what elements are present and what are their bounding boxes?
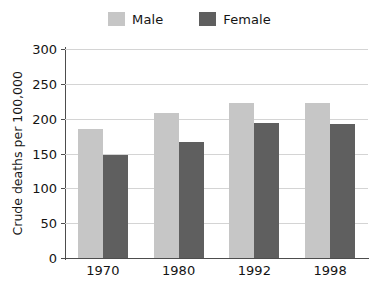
y-tick-label-0: 0: [49, 252, 57, 265]
legend-entry-female: Female: [199, 12, 271, 26]
legend-label-female: Female: [223, 13, 271, 26]
x-tick-label-1992: 1992: [214, 264, 294, 277]
chart-legend: Male Female: [0, 12, 379, 26]
x-tick-label-1980: 1980: [139, 264, 219, 277]
y-tick-mark-250: [61, 84, 65, 85]
legend-swatch-male: [108, 12, 125, 26]
y-tick-label-150: 150: [32, 147, 57, 160]
plot-area: 050100150200250300: [65, 49, 368, 258]
bar-male-1992: [229, 103, 254, 258]
bar-male-1998: [305, 103, 330, 258]
bar-male-1970: [78, 129, 103, 258]
y-tick-label-50: 50: [40, 217, 57, 230]
y-tick-mark-0: [61, 258, 65, 259]
y-tick-mark-150: [61, 154, 65, 155]
gridline-250: [65, 84, 368, 85]
legend-label-male: Male: [132, 13, 163, 26]
bar-female-1970: [103, 155, 128, 258]
bar-male-1980: [154, 113, 179, 258]
bar-chart-figure: Male Female Crude deaths per 100,000 050…: [0, 0, 379, 290]
y-axis-title: Crude deaths per 100,000: [9, 49, 27, 258]
y-tick-mark-300: [61, 49, 65, 50]
gridline-300: [65, 49, 368, 50]
y-tick-label-200: 200: [32, 112, 57, 125]
y-tick-label-250: 250: [32, 77, 57, 90]
legend-entry-male: Male: [108, 12, 163, 26]
x-tick-label-1998: 1998: [290, 264, 370, 277]
y-axis-title-text: Crude deaths per 100,000: [12, 71, 25, 235]
y-tick-mark-200: [61, 119, 65, 120]
gridline-0: [65, 258, 368, 259]
legend-swatch-female: [199, 12, 216, 26]
x-tick-label-1970: 1970: [63, 264, 143, 277]
y-tick-mark-100: [61, 188, 65, 189]
y-tick-label-100: 100: [32, 182, 57, 195]
y-tick-label-300: 300: [32, 43, 57, 56]
bar-female-1980: [179, 142, 204, 258]
y-tick-mark-50: [61, 223, 65, 224]
bar-female-1992: [254, 123, 279, 258]
bar-female-1998: [330, 124, 355, 258]
